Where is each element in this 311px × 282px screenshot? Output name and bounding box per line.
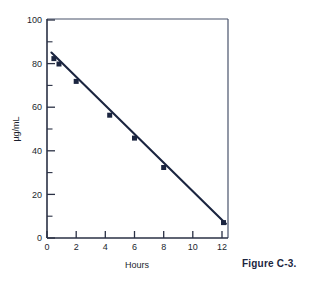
x-tick-label: 8 — [161, 242, 166, 252]
x-tick-label: 0 — [44, 242, 49, 252]
figure-container: 0 20 40 60 80 100 0 2 4 6 8 10 12 Hours … — [0, 0, 311, 282]
x-tick-label: 12 — [217, 242, 227, 252]
plot-frame — [47, 19, 228, 238]
data-point — [107, 113, 112, 118]
data-point — [74, 79, 79, 84]
y-tick-label: 80 — [32, 59, 42, 69]
x-axis-tick-labels: 0 2 4 6 8 10 12 — [44, 242, 227, 252]
fit-line — [51, 53, 226, 224]
data-point — [161, 165, 166, 170]
data-point-markers — [51, 56, 226, 225]
x-tick-label: 4 — [103, 242, 108, 252]
x-axis-title: Hours — [125, 260, 150, 270]
data-point — [51, 56, 56, 61]
y-tick-label: 100 — [27, 15, 42, 25]
y-tick-label: 40 — [32, 146, 42, 156]
y-axis-tick-labels: 0 20 40 60 80 100 — [27, 15, 42, 243]
data-point — [132, 136, 137, 141]
x-axis-major-ticks — [47, 231, 222, 238]
data-point — [221, 220, 226, 225]
x-tick-label: 10 — [188, 242, 198, 252]
y-axis-title: µg/mL — [11, 116, 21, 141]
y-tick-label: 0 — [37, 233, 42, 243]
figure-caption: Figure C-3. — [242, 258, 296, 269]
concentration-vs-time-chart: 0 20 40 60 80 100 0 2 4 6 8 10 12 Hours … — [0, 0, 311, 282]
y-tick-label: 60 — [32, 102, 42, 112]
data-point — [57, 62, 62, 67]
x-tick-label: 2 — [74, 242, 79, 252]
y-axis-minor-ticks — [47, 42, 53, 216]
y-tick-label: 20 — [32, 190, 42, 200]
x-tick-label: 6 — [132, 242, 137, 252]
